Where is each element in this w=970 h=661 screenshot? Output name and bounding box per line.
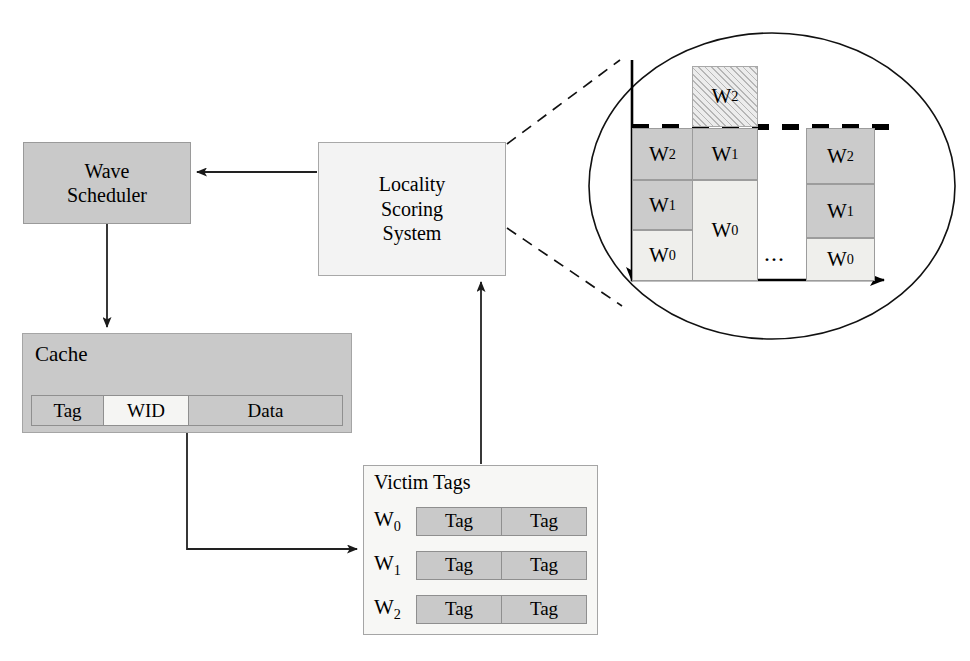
victim-tag-cell: Tag — [417, 508, 502, 535]
bar-2-segment-w0: W0 — [692, 180, 758, 281]
bar-seg-sub: 1 — [847, 203, 854, 220]
bar-seg-label: W — [712, 142, 732, 167]
cache-field-tag: Tag — [32, 396, 104, 425]
victim-tags-row-w0: W0 Tag Tag — [374, 504, 587, 538]
bar-1-segment-w0: W0 — [632, 230, 693, 281]
victim-tag-cell: Tag — [502, 552, 586, 579]
cache-field-wid: WID — [104, 396, 189, 425]
victim-tag-cell: Tag — [417, 596, 502, 623]
victim-tags-title: Victim Tags — [374, 471, 470, 494]
victim-tags-cells-w1: Tag Tag — [416, 551, 587, 580]
bar-3-segment-w0: W0 — [806, 238, 875, 281]
bar-seg-label: W — [827, 144, 847, 169]
block-cache[interactable]: Cache Tag WID Data — [22, 333, 352, 433]
victim-tags-row-label-w1: W1 — [374, 551, 416, 579]
bar-seg-label: W — [649, 193, 669, 218]
w-index: 2 — [394, 606, 401, 622]
victim-tags-row-label-w2: W2 — [374, 595, 416, 623]
victim-tags-cells-w2: Tag Tag — [416, 595, 587, 624]
bar-1-segment-w2: W2 — [632, 128, 693, 180]
block-wave-scheduler[interactable]: Wave Scheduler — [23, 142, 191, 224]
bar-seg-label: W — [712, 84, 732, 109]
bar-seg-label: W — [827, 199, 847, 224]
bar-seg-sub: 2 — [669, 146, 676, 163]
block-victim-tags[interactable]: Victim Tags W0 Tag Tag W1 Tag Tag W2 Tag… — [363, 465, 598, 635]
cache-field-data: Data — [189, 396, 342, 425]
bar-seg-sub: 0 — [847, 251, 854, 268]
victim-tags-row-label-w0: W0 — [374, 507, 416, 535]
bar-seg-sub: 0 — [731, 222, 738, 239]
wave-scheduler-line1: Wave — [84, 160, 129, 182]
callout-leader-top — [507, 60, 620, 144]
locality-line3: System — [383, 222, 442, 244]
victim-tag-cell: Tag — [502, 508, 586, 535]
callout-leader-bottom — [507, 228, 622, 306]
w-index: 1 — [394, 562, 401, 578]
victim-tag-cell: Tag — [417, 552, 502, 579]
bar-seg-label: W — [712, 218, 732, 243]
chart-ellipsis: ... — [764, 240, 785, 267]
w-letter: W — [374, 551, 394, 575]
locality-line1: Locality — [379, 173, 446, 195]
bar-seg-label: W — [649, 142, 669, 167]
bar-seg-sub: 1 — [669, 197, 676, 214]
cache-title: Cache — [35, 342, 87, 367]
w-letter: W — [374, 507, 394, 531]
bar-seg-sub: 1 — [731, 146, 738, 163]
bar-2-segment-w2-overflow: W2 — [692, 66, 758, 127]
bar-seg-sub: 0 — [669, 247, 676, 264]
bar-seg-sub: 2 — [847, 148, 854, 165]
victim-tags-cells-w0: Tag Tag — [416, 507, 587, 536]
locality-line2: Scoring — [381, 198, 443, 220]
bar-seg-label: W — [827, 247, 847, 272]
w-index: 0 — [394, 518, 401, 534]
w-letter: W — [374, 595, 394, 619]
wave-scheduler-line2: Scheduler — [67, 184, 147, 206]
cache-line-layout: Tag WID Data — [31, 395, 343, 426]
bar-3-segment-w1: W1 — [806, 184, 875, 238]
bar-seg-label: W — [649, 243, 669, 268]
bar-seg-sub: 2 — [731, 88, 738, 105]
victim-tags-row-w1: W1 Tag Tag — [374, 548, 587, 582]
victim-tag-cell: Tag — [502, 596, 586, 623]
bar-3-segment-w2: W2 — [806, 128, 875, 184]
bar-1-segment-w1: W1 — [632, 180, 693, 230]
arrow-cache-to-victim-tags — [187, 433, 357, 549]
victim-tags-row-w2: W2 Tag Tag — [374, 592, 587, 626]
block-locality-scoring-system[interactable]: Locality Scoring System — [318, 142, 506, 276]
bar-2-segment-w1: W1 — [692, 128, 758, 180]
